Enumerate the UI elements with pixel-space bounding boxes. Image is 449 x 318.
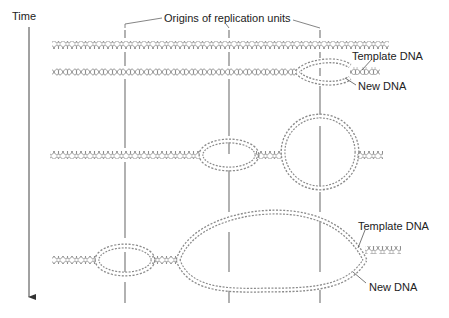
- template-dna-label-lower: Template DNA: [358, 220, 429, 232]
- dna-row-1: [52, 41, 389, 49]
- dna-row-2: [52, 61, 380, 83]
- template-dna-label-upper: Template DNA: [352, 50, 423, 62]
- new-dna-label-upper: New DNA: [358, 80, 406, 92]
- origins-label: Origins of replication units: [164, 12, 291, 24]
- new-dna-label-lower: New DNA: [369, 281, 417, 293]
- dna-row-4: [52, 212, 401, 290]
- replication-diagram: [0, 0, 449, 318]
- dna-row-3: [50, 116, 383, 188]
- time-label: Time: [12, 10, 36, 22]
